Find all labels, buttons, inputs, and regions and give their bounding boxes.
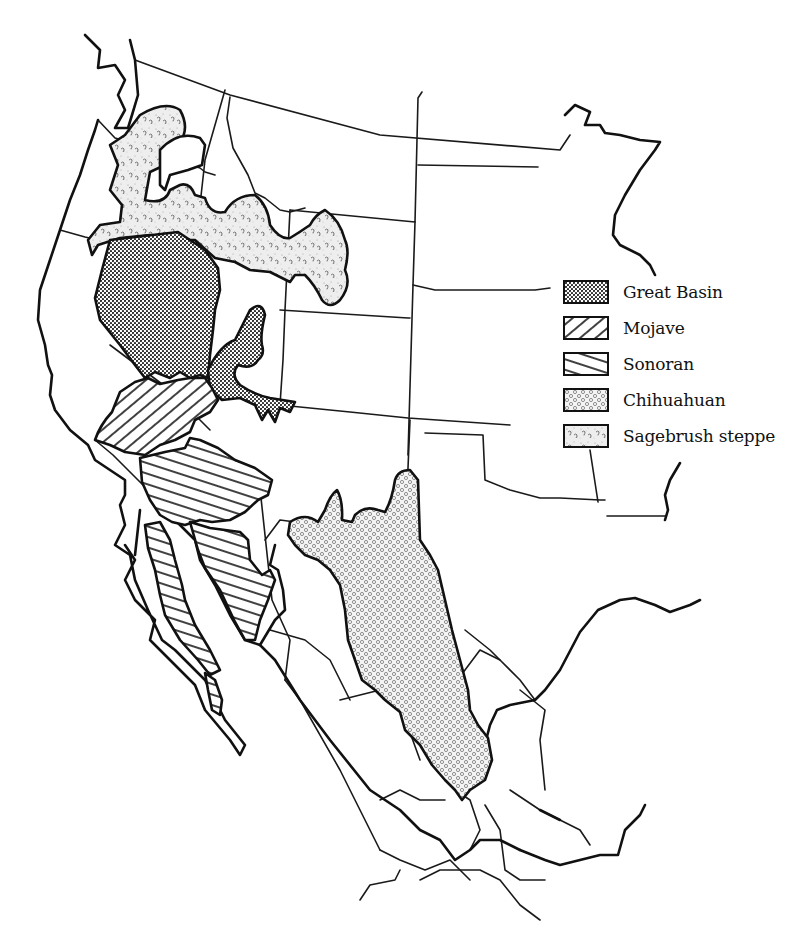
legend-item-chihuahuan: Chihuahuan xyxy=(563,382,803,418)
legend-item-mojave: Mojave xyxy=(563,310,803,346)
legend-label: Sagebrush steppe xyxy=(623,426,775,446)
legend-label: Sonoran xyxy=(623,354,694,374)
chihuahuan-swatch-icon xyxy=(563,388,609,412)
sagebrush-steppe-swatch-icon xyxy=(563,424,609,448)
legend-item-great-basin: Great Basin xyxy=(563,274,803,310)
region-chihuahuan xyxy=(288,470,492,800)
legend-label: Great Basin xyxy=(623,282,723,302)
legend-item-sonoran: Sonoran xyxy=(563,346,803,382)
region-sonoran xyxy=(140,438,275,715)
legend-label: Mojave xyxy=(623,318,685,338)
map-legend: Great Basin Mojave Sonoran Chihuahuan Sa… xyxy=(563,274,803,454)
legend-label: Chihuahuan xyxy=(623,390,725,410)
mojave-swatch-icon xyxy=(563,316,609,340)
great-basin-swatch-icon xyxy=(563,280,609,304)
legend-item-sagebrush-steppe: Sagebrush steppe xyxy=(563,418,803,454)
sonoran-swatch-icon xyxy=(563,352,609,376)
desert-map xyxy=(0,0,812,929)
